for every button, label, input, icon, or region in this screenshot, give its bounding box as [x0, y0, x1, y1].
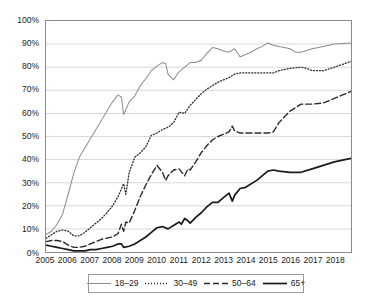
series-line-0 [46, 43, 351, 235]
x-tick-label: 2014 [236, 256, 255, 265]
x-tick-label: 2017 [303, 256, 322, 265]
x-tick-label: 2018 [326, 256, 345, 265]
y-axis: 0%10%20%30%40%50%60%70%80%90%100% [0, 0, 42, 273]
legend-swatch-icon [263, 280, 287, 287]
legend-entry-3[interactable]: 65+ [263, 279, 305, 288]
x-tick-label: 2015 [259, 256, 278, 265]
y-tick-label: 60% [22, 109, 39, 118]
x-tick-label: 2016 [281, 256, 300, 265]
series-lines [46, 21, 351, 252]
legend-entry-0[interactable]: 18–29 [87, 279, 139, 288]
legend-swatch-icon [145, 280, 169, 287]
y-tick-label: 80% [22, 62, 39, 71]
y-tick-label: 30% [22, 179, 39, 188]
x-tick-label: 2005 [36, 256, 55, 265]
x-tick-label: 2006 [58, 256, 77, 265]
legend-label: 18–29 [115, 279, 139, 288]
y-tick-label: 10% [22, 225, 39, 234]
legend-entry-2[interactable]: 50–64 [204, 279, 256, 288]
x-tick-label: 2007 [80, 256, 99, 265]
plot-area [45, 20, 352, 253]
y-tick-label: 20% [22, 202, 39, 211]
y-tick-label: 50% [22, 132, 39, 141]
legend-swatch-icon [87, 280, 111, 287]
y-tick-label: 70% [22, 85, 39, 94]
y-tick-label: 40% [22, 155, 39, 164]
x-tick-label: 2013 [214, 256, 233, 265]
series-line-1 [46, 61, 351, 238]
chart-legend: 18–2930–4950–6465+ [88, 274, 304, 293]
y-tick-label: 90% [22, 39, 39, 48]
series-line-2 [46, 91, 351, 247]
x-tick-label: 2012 [192, 256, 211, 265]
x-tick-label: 2009 [125, 256, 144, 265]
legend-entry-1[interactable]: 30–49 [145, 279, 197, 288]
y-tick-label: 100% [17, 16, 39, 25]
legend-label: 50–64 [232, 279, 256, 288]
legend-label: 30–49 [173, 279, 197, 288]
x-axis: 2005200620072008200920102011201220132014… [45, 256, 352, 270]
x-tick-label: 2010 [147, 256, 166, 265]
legend-label: 65+ [291, 279, 305, 288]
line-chart: 0%10%20%30%40%50%60%70%80%90%100% 200520… [0, 0, 369, 303]
x-tick-label: 2008 [103, 256, 122, 265]
legend-swatch-icon [204, 280, 228, 287]
series-line-3 [46, 158, 351, 250]
x-tick-label: 2011 [170, 256, 188, 265]
